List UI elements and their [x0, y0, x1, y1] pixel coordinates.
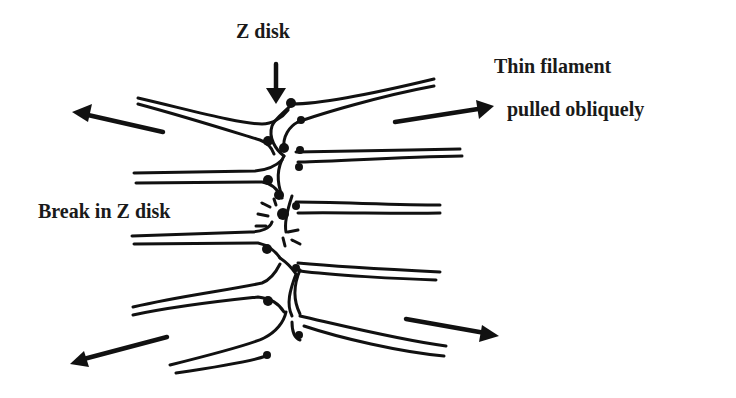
arrow-lower-left [70, 337, 167, 367]
arrow-upper-right [395, 100, 494, 122]
z-disk-label: Z disk [236, 20, 290, 43]
z-disk-line [271, 104, 300, 340]
sarcomere-diagram [0, 0, 736, 398]
right-thin-filaments [292, 79, 462, 356]
thin-filament-label: Thin filament [494, 55, 611, 78]
arrow-lower-right [406, 319, 499, 342]
pulled-obliquely-label: pulled obliquely [507, 98, 644, 121]
z-disk-pointer-arrow [266, 64, 286, 104]
break-in-z-disk-label: Break in Z disk [38, 200, 170, 223]
